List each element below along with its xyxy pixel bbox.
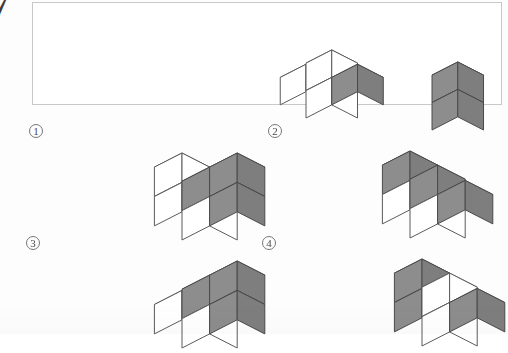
option-4-label[interactable]: 4 (262, 236, 276, 250)
option-4-figure (312, 236, 508, 353)
option-3-label[interactable]: 3 (26, 236, 40, 250)
option-3-figure (72, 238, 292, 353)
option-2-label[interactable]: 2 (268, 124, 282, 138)
question-number: 7 (0, 0, 7, 22)
option-1-label[interactable]: 1 (29, 124, 43, 138)
